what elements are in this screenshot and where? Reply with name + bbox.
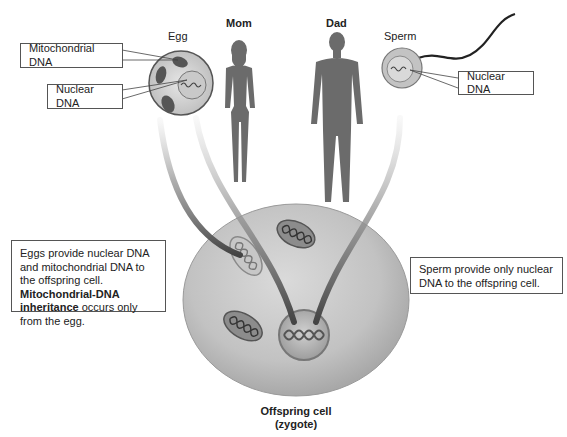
egg-nuclear-callout: Nuclear DNA xyxy=(47,84,123,109)
sperm-note-text: Sperm provide only nuclear DNA to the of… xyxy=(419,263,553,289)
egg-label: Egg xyxy=(168,30,188,42)
zygote-nucleus xyxy=(279,310,329,360)
dad-label: Dad xyxy=(326,17,347,29)
zygote-cell xyxy=(183,204,409,396)
egg-note-text-1: Eggs provide nuclear DNA and mitochondri… xyxy=(20,247,149,286)
sperm-nuclear-callout-text: Nuclear DNA xyxy=(467,70,525,97)
egg-nuclear-callout-text: Nuclear DNA xyxy=(56,83,114,110)
egg-cell xyxy=(149,51,213,115)
zygote-subtitle: (zygote) xyxy=(246,418,346,431)
egg-mito-callout-text: Mitochondrial DNA xyxy=(29,42,114,69)
zygote-caption: Offspring cell (zygote) xyxy=(246,405,346,431)
mom-silhouette-icon xyxy=(225,40,255,182)
sperm-label: Sperm xyxy=(384,30,416,42)
dad-silhouette-icon xyxy=(311,32,363,202)
sperm-note: Sperm provide only nuclear DNA to the of… xyxy=(410,257,563,294)
mom-label: Mom xyxy=(226,17,252,29)
egg-note: Eggs provide nuclear DNA and mitochondri… xyxy=(11,240,166,312)
sperm-nuclear-callout: Nuclear DNA xyxy=(458,71,534,95)
egg-mito-callout: Mitochondrial DNA xyxy=(20,43,123,68)
diagram-canvas: Egg Mom Dad Sperm Mitochondrial DNA Nucl… xyxy=(0,0,567,437)
zygote-title: Offspring cell xyxy=(246,405,346,418)
